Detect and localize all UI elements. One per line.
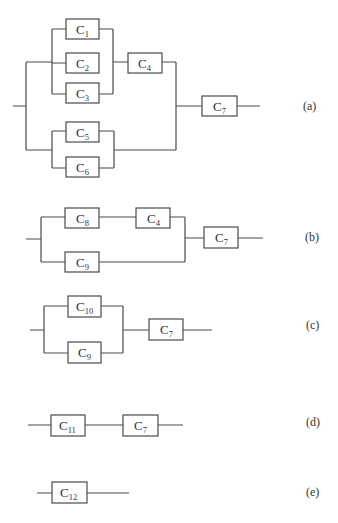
component-c4: C4 (136, 208, 170, 228)
subfigure-label-a: (a) (303, 99, 316, 113)
reliability-diagram: C1 C2 C3 C4 C5 C6 C7 (a (0, 0, 338, 523)
component-c9: C9 (65, 252, 99, 272)
subfigure-label-d: (d) (306, 415, 320, 429)
component-c3: C3 (66, 83, 99, 103)
component-c11: C11 (51, 415, 85, 436)
component-c7: C7 (123, 415, 158, 436)
subfigure-c: C10 C9 C7 (c) (30, 296, 319, 363)
subfigure-label-b: (b) (305, 230, 319, 244)
component-c4: C4 (128, 53, 162, 73)
wire (30, 306, 212, 353)
subfigure-label-c: (c) (306, 318, 319, 332)
component-c10: C10 (68, 296, 101, 317)
subfigure-d: C11 C7 (d) (28, 415, 320, 436)
component-c2: C2 (66, 53, 99, 73)
subfigure-b: C8 C4 C9 C7 (b) (26, 208, 319, 272)
component-c7: C7 (202, 96, 237, 116)
component-c5: C5 (66, 122, 99, 142)
component-c12: C12 (52, 482, 87, 503)
component-c1: C1 (66, 19, 99, 39)
subfigure-e: C12 (e) (37, 482, 319, 503)
component-c7: C7 (204, 227, 238, 248)
subfigure-label-e: (e) (306, 485, 319, 499)
component-c7: C7 (149, 319, 183, 340)
subfigure-a: C1 C2 C3 C4 C5 C6 C7 (a (13, 19, 316, 177)
component-c9: C9 (68, 342, 101, 363)
component-c6: C6 (66, 157, 99, 177)
component-c8: C8 (65, 208, 99, 228)
